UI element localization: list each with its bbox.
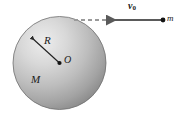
figure-canvas — [0, 0, 178, 114]
velocity-subscript: 0 — [132, 4, 136, 12]
particle-mass-label: m — [167, 14, 174, 23]
velocity-label: v0 — [128, 1, 136, 12]
center-label: O — [64, 55, 71, 65]
center-dot — [57, 61, 61, 65]
sphere-mass-label: M — [31, 74, 40, 85]
particle-dot — [161, 18, 166, 23]
radius-label: R — [44, 35, 51, 46]
physics-figure: R O M m v0 — [0, 0, 178, 114]
